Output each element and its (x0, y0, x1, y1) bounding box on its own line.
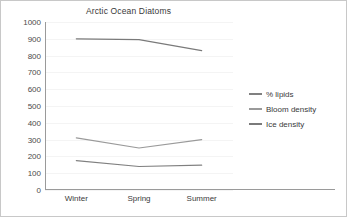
plot-area (45, 22, 233, 190)
x-axis-tick-label: Winter (65, 194, 88, 203)
y-axis-tick-label: 900 (1, 34, 41, 43)
chart-figure: Arctic Ocean Diatoms 0100200300400500600… (0, 0, 347, 217)
legend-item[interactable]: % lipids (249, 87, 345, 101)
y-axis-tick-label: 500 (1, 102, 41, 111)
series-line (76, 138, 201, 148)
y-axis-tick-label: 0 (1, 186, 41, 195)
legend-item[interactable]: Ice density (249, 117, 345, 131)
x-axis-tick-label: Spring (127, 194, 150, 203)
series-line (76, 161, 201, 167)
chart-title: Arctic Ocean Diatoms (1, 6, 256, 16)
series-line (76, 39, 201, 51)
x-axis-tick-label: Summer (187, 194, 217, 203)
y-axis-tick-label: 100 (1, 169, 41, 178)
legend-swatch-icon (249, 93, 262, 95)
legend-item-label: Bloom density (266, 105, 316, 114)
series-lines (45, 22, 233, 190)
legend-item-label: Ice density (266, 120, 304, 129)
legend-item-label: % lipids (266, 90, 294, 99)
legend-swatch-icon (249, 108, 262, 110)
y-axis-tick-label: 400 (1, 118, 41, 127)
x-axis-tick-labels: WinterSpringSummer (45, 194, 233, 210)
y-axis-tick-labels: 01002003004005006007008009001000 (1, 22, 41, 190)
y-axis-tick-label: 700 (1, 68, 41, 77)
y-axis-tick-label: 800 (1, 51, 41, 60)
legend-item[interactable]: Bloom density (249, 102, 345, 116)
y-axis-line (45, 22, 46, 190)
y-axis-tick-label: 200 (1, 152, 41, 161)
legend-swatch-icon (249, 123, 262, 125)
y-axis-tick-label: 300 (1, 135, 41, 144)
x-axis-line (45, 189, 335, 190)
y-axis-tick-label: 600 (1, 85, 41, 94)
gridline (45, 190, 233, 191)
y-axis-tick-label: 1000 (1, 18, 41, 27)
chart-legend: % lipidsBloom densityIce density (249, 87, 345, 132)
